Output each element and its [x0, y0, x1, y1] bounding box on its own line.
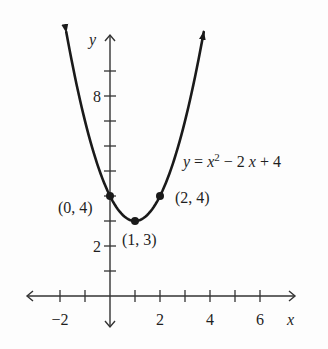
y-tick-label: 2 — [93, 238, 101, 255]
parabola-graph: −2246 x 28 y (0, 4)(1, 3)(2, 4) y = x2 −… — [0, 0, 328, 349]
x-tick-label: 2 — [156, 311, 164, 328]
x-tick-label: 6 — [256, 311, 264, 328]
point-marker — [106, 192, 114, 200]
x-axis-label: x — [286, 311, 294, 328]
highlighted-points: (0, 4)(1, 3)(2, 4) — [58, 189, 210, 249]
x-axis: −2246 x — [27, 290, 295, 328]
plot-area: −2246 x 28 y (0, 4)(1, 3)(2, 4) y = x2 −… — [0, 0, 328, 349]
x-tick-label: 4 — [206, 311, 214, 328]
y-axis-label: y — [87, 31, 97, 49]
x-axis-tick-labels: −2246 — [51, 311, 264, 328]
point-label: (2, 4) — [175, 189, 210, 207]
y-tick-label: 8 — [93, 88, 101, 105]
point-marker — [156, 192, 164, 200]
point-label: (1, 3) — [122, 231, 157, 249]
point-marker — [131, 217, 139, 225]
equation-variable: x — [248, 153, 256, 170]
point-label: (0, 4) — [58, 199, 93, 217]
equation-label: y = x2 − 2 x + 4 — [181, 151, 281, 171]
x-tick-label: −2 — [51, 311, 68, 328]
